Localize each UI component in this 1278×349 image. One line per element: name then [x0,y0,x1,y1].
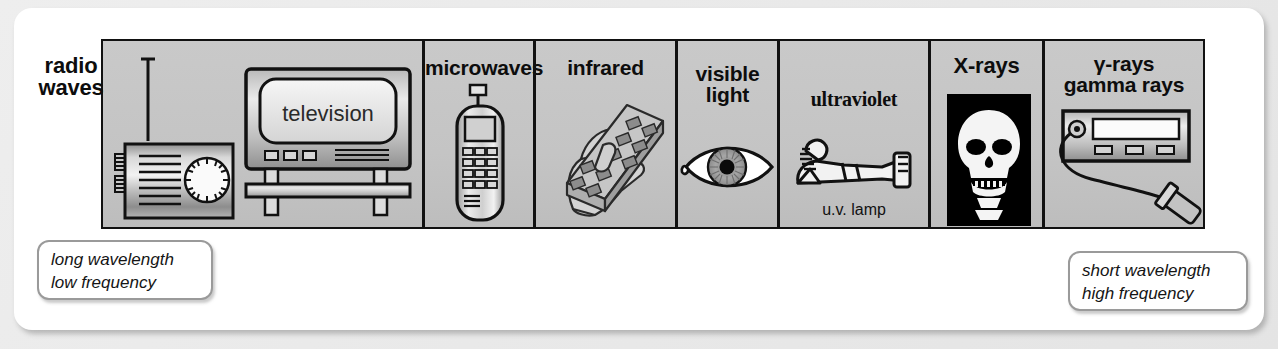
band-radio[interactable]: radio waves [103,41,422,227]
callout-short-wavelength: short wavelength high frequency [1068,251,1248,311]
sunbather-icon [786,133,926,195]
band-label-xrays: X-rays [931,55,1042,77]
skull-xray-icon [947,94,1031,226]
callout-long-wavelength: long wavelength low frequency [37,240,213,300]
diagram-card: radio waves [14,8,1264,330]
eye-icon [678,136,780,198]
band-label-visible-light: visible light [678,63,777,106]
hand-remote-control-icon [551,91,671,221]
mobile-phone-icon [449,84,511,224]
radio-receiver-icon [111,56,241,226]
band-xrays[interactable]: X-rays [928,41,1042,227]
band-infrared[interactable]: infrared [533,41,675,227]
band-label-infrared: infrared [536,57,675,78]
band-ultraviolet[interactable]: ultraviolet u.v. lamp [777,41,928,227]
band-visible-light[interactable]: visible light [675,41,777,227]
band-label-ultraviolet: ultraviolet [780,89,928,109]
band-label-gamma-rays: γ-rays gamma rays [1045,53,1203,96]
page-background: radio waves [0,0,1278,349]
geiger-counter-icon [1051,109,1201,227]
band-label-microwaves: microwaves [425,57,533,78]
band-caption-ultraviolet: u.v. lamp [780,201,928,219]
television-icon: television [243,66,413,226]
spectrum-panel: radio waves [101,39,1205,229]
band-microwaves[interactable]: microwaves [422,41,533,227]
band-gamma-rays[interactable]: γ-rays gamma rays [1042,41,1203,227]
tv-screen-text: television [282,101,374,126]
